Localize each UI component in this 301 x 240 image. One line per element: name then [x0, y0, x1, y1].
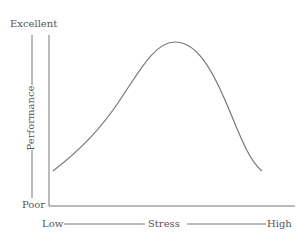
y-axis-title: Performance [25, 83, 37, 153]
x-right-label: High [267, 218, 292, 230]
performance-curve [53, 42, 262, 171]
y-top-label: Excellent [10, 18, 57, 30]
x-left-label: Low [42, 218, 63, 230]
y-bottom-label: Poor [22, 199, 45, 211]
x-axis-title: Stress [148, 218, 180, 230]
